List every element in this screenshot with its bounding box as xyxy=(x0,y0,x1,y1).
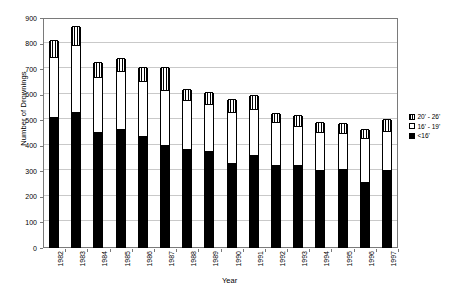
legend-label: 20' - 26' xyxy=(418,112,441,122)
table-row[interactable] xyxy=(160,68,170,248)
bar-segment-mid xyxy=(50,57,58,117)
bar-slot xyxy=(265,18,287,248)
bar-slot xyxy=(331,18,353,248)
x-tick-label: 1997 xyxy=(390,251,397,267)
legend-swatch-icon xyxy=(409,123,415,129)
table-row[interactable] xyxy=(49,41,59,248)
bar-segment-large xyxy=(272,113,280,122)
x-tick-label: 1987 xyxy=(168,251,175,267)
bar-segment-small xyxy=(272,165,280,247)
x-tick-mark xyxy=(154,249,155,252)
table-row[interactable] xyxy=(293,116,303,248)
x-tick-label: 1986 xyxy=(146,251,153,267)
bar-segment-large xyxy=(250,95,258,109)
bar-segment-small xyxy=(94,132,102,247)
bar-segment-large xyxy=(339,123,347,133)
legend-item[interactable]: 16' - 19' xyxy=(409,122,440,132)
x-tick-label: 1992 xyxy=(279,251,286,267)
x-tick-label: 1982 xyxy=(57,251,64,267)
x-tick-mark xyxy=(265,249,266,252)
table-row[interactable] xyxy=(138,68,148,248)
bar-segment-small xyxy=(117,129,125,247)
bar-segment-large xyxy=(383,119,391,131)
bar-slot xyxy=(376,18,398,248)
bar-segment-mid xyxy=(139,81,147,136)
table-row[interactable] xyxy=(338,124,348,248)
table-row[interactable] xyxy=(249,96,259,248)
y-tick-label: 700 xyxy=(3,66,37,73)
x-tick-label: 1993 xyxy=(301,251,308,267)
bar-segment-large xyxy=(183,89,191,101)
legend-item[interactable]: <16' xyxy=(409,131,440,141)
bar-segment-large xyxy=(228,99,236,112)
x-tick-label: 1985 xyxy=(124,251,131,267)
x-tick-mark xyxy=(243,249,244,252)
bar-segment-mid xyxy=(383,131,391,171)
bar-segment-small xyxy=(72,112,80,247)
x-axis-ticks: 1982198319841985198619871988198919901991… xyxy=(43,249,398,289)
bar-slot xyxy=(287,18,309,248)
bar-slot xyxy=(198,18,220,248)
y-tick-label: 0 xyxy=(3,245,37,252)
bar-segment-small xyxy=(183,149,191,247)
bar-segment-large xyxy=(72,26,80,45)
bar-slot xyxy=(176,18,198,248)
table-row[interactable] xyxy=(315,123,325,248)
chart-legend: 20' - 26'16' - 19'<16' xyxy=(409,112,440,141)
bar-slot xyxy=(87,18,109,248)
x-tick-label: 1983 xyxy=(79,251,86,267)
x-tick-mark xyxy=(376,249,377,252)
bar-segment-small xyxy=(339,169,347,247)
table-row[interactable] xyxy=(116,59,126,248)
table-row[interactable] xyxy=(360,130,370,248)
bar-segment-mid xyxy=(205,104,213,151)
table-row[interactable] xyxy=(382,120,392,248)
bar-slot xyxy=(309,18,331,248)
y-tick-label: 500 xyxy=(3,117,37,124)
bar-segment-mid xyxy=(117,71,125,130)
x-tick-label: 1991 xyxy=(257,251,264,267)
bar-slot xyxy=(65,18,87,248)
x-tick-label: 1990 xyxy=(235,251,242,267)
bar-segment-small xyxy=(205,151,213,247)
x-tick-mark xyxy=(176,249,177,252)
bar-segment-mid xyxy=(250,109,258,155)
x-tick-mark xyxy=(110,249,111,252)
x-tick-mark xyxy=(354,249,355,252)
bar-segment-mid xyxy=(228,112,236,163)
x-tick-label: 1995 xyxy=(346,251,353,267)
legend-label: <16' xyxy=(418,131,430,141)
y-tick-label: 600 xyxy=(3,91,37,98)
bar-slot xyxy=(354,18,376,248)
y-tick-label: 800 xyxy=(3,40,37,47)
legend-item[interactable]: 20' - 26' xyxy=(409,112,440,122)
y-tick-label: 200 xyxy=(3,193,37,200)
bar-segment-small xyxy=(250,155,258,247)
bar-segment-mid xyxy=(294,126,302,166)
table-row[interactable] xyxy=(271,114,281,248)
table-row[interactable] xyxy=(204,93,214,248)
bar-slot xyxy=(110,18,132,248)
bar-segment-large xyxy=(294,115,302,125)
bar-segment-large xyxy=(94,62,102,77)
bar-segment-large xyxy=(161,67,169,90)
bar-segment-small xyxy=(383,170,391,247)
x-axis-title: Year xyxy=(222,276,237,285)
y-tick-label: 400 xyxy=(3,142,37,149)
bar-slot xyxy=(243,18,265,248)
y-tick-label: 900 xyxy=(3,15,37,22)
bar-segment-small xyxy=(361,182,369,247)
table-row[interactable] xyxy=(182,90,192,248)
x-tick-label: 1989 xyxy=(212,251,219,267)
bar-segment-large xyxy=(361,129,369,138)
bar-segment-mid xyxy=(183,100,191,149)
bar-segment-large xyxy=(316,122,324,132)
x-tick-mark xyxy=(221,249,222,252)
x-tick-label: 1994 xyxy=(323,251,330,267)
bar-segment-mid xyxy=(316,132,324,170)
table-row[interactable] xyxy=(93,63,103,248)
x-tick-mark xyxy=(287,249,288,252)
table-row[interactable] xyxy=(71,27,81,248)
bar-segment-mid xyxy=(72,45,80,111)
table-row[interactable] xyxy=(227,100,237,248)
